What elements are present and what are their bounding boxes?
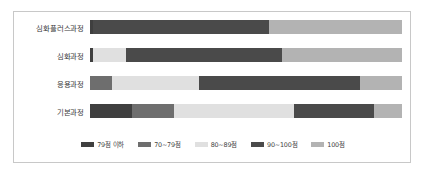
bar-segment-90-100 [199,76,360,90]
bar-row: 응용과정 [14,68,402,98]
bar-segment-79-and-below [90,104,132,118]
bar-segment-100 [374,104,402,118]
legend-label: 79점 이하 [97,140,124,149]
legend-label: 70~79점 [154,140,180,149]
bar-segment-70-79 [90,76,112,90]
category-label: 심화플러스과정 [14,12,87,42]
bar-row: 기본과정 [14,96,402,126]
legend-swatch-icon [311,142,324,147]
bar-segment-100 [282,48,402,62]
legend-item-79-and-below: 79점 이하 [81,140,124,149]
bar-segment-100 [360,76,402,90]
bar-segment-90-100 [93,20,269,34]
legend-item-70-79: 70~79점 [138,140,180,149]
stacked-bar [90,104,402,118]
bar-segment-100 [269,20,402,34]
bar-segment-80-89 [93,48,126,62]
legend-label: 90~100점 [267,140,297,149]
bar-row: 심화플러스과정 [14,12,402,42]
chart-frame: 심화플러스과정 심화과정 응용과정 [13,11,411,163]
category-label: 응용과정 [14,68,87,98]
bar-row: 심화과정 [14,40,402,70]
bar-segment-80-89 [112,76,199,90]
legend-item-80-89: 80~89점 [195,140,237,149]
category-label: 기본과정 [14,96,87,126]
plot-area: 심화플러스과정 심화과정 응용과정 [14,12,412,132]
legend-item-90-100: 90~100점 [251,140,297,149]
legend-swatch-icon [195,142,208,147]
chart-legend: 79점 이하 70~79점 80~89점 90~100점 100점 [14,134,412,154]
legend-swatch-icon [251,142,264,147]
stacked-bar [90,76,402,90]
bar-segment-90-100 [294,104,374,118]
legend-swatch-icon [138,142,151,147]
bar-segment-90-100 [126,48,282,62]
legend-item-100: 100점 [311,140,344,149]
legend-label: 80~89점 [211,140,237,149]
legend-label: 100점 [327,140,344,149]
stacked-bar [90,48,402,62]
stacked-bar [90,20,402,34]
bar-segment-80-89 [174,104,294,118]
legend-swatch-icon [81,142,94,147]
bar-segment-70-79 [132,104,174,118]
category-label: 심화과정 [14,40,87,70]
